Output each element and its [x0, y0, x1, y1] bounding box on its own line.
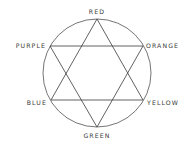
label-orange: ORANGE — [146, 42, 179, 49]
primary-triangle — [51, 19, 143, 100]
color-circle — [43, 19, 151, 127]
label-green: GREEN — [83, 132, 110, 139]
label-blue: BLUE — [27, 99, 47, 106]
hexagram-svg: RED ORANGE YELLOW GREEN BLUE PURPLE — [0, 0, 191, 144]
color-wheel-diagram: RED ORANGE YELLOW GREEN BLUE PURPLE — [0, 0, 191, 144]
label-yellow: YELLOW — [146, 99, 179, 106]
label-purple: PURPLE — [16, 42, 46, 49]
secondary-triangle — [50, 46, 143, 127]
label-red: RED — [89, 8, 105, 15]
